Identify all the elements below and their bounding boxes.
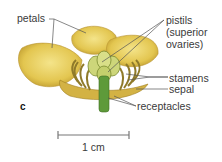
label-receptacles: receptacles bbox=[137, 101, 191, 112]
panel-letter: c bbox=[20, 101, 26, 112]
label-sepal: sepal bbox=[169, 84, 194, 95]
label-pistils: pistils bbox=[166, 15, 192, 26]
scale-bar-label: 1 cm bbox=[82, 142, 105, 153]
label-pistils-ovaries: ovaries) bbox=[166, 39, 203, 50]
label-pistils-superior: (superior bbox=[166, 27, 207, 38]
label-petals: petals bbox=[17, 13, 45, 24]
receptacle-stem bbox=[99, 76, 109, 112]
